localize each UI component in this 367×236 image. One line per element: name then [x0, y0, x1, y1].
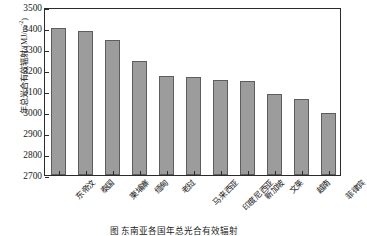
x-tick-label: 柬埔寨 — [128, 178, 151, 201]
x-axis-tick-labels: 东帝汶泰国柬埔寨缅甸老挝马来西亚印度尼西亚新加坡文莱越南菲律宾 — [44, 178, 341, 218]
y-axis-tick-labels: 350034003300320031003000290028002700 — [6, 8, 42, 176]
bar — [213, 80, 228, 175]
y-tick-mark — [45, 72, 49, 73]
x-tick-label: 马来西亚 — [211, 178, 240, 207]
y-tick-label: 3000 — [6, 109, 42, 118]
x-tick-label: 老挝 — [179, 178, 197, 196]
x-tick-mark — [86, 171, 87, 175]
y-tick-mark — [45, 9, 49, 10]
x-tick-mark — [302, 171, 303, 175]
y-tick-label: 2700 — [6, 172, 42, 181]
y-tick-mark — [45, 93, 49, 94]
x-tick-label: 菲律宾 — [344, 178, 367, 201]
y-tick-mark — [45, 156, 49, 157]
y-tick-mark — [45, 135, 49, 136]
y-tick-label: 3500 — [6, 4, 42, 13]
y-tick-label: 2800 — [6, 151, 42, 160]
x-tick-mark — [167, 171, 168, 175]
bar — [321, 113, 336, 175]
y-tick-label: 3100 — [6, 88, 42, 97]
bar — [294, 99, 309, 175]
y-tick-mark — [45, 114, 49, 115]
x-tick-mark — [329, 171, 330, 175]
y-tick-mark — [45, 30, 49, 31]
x-tick-mark — [275, 171, 276, 175]
bar — [159, 76, 174, 175]
x-tick-mark — [221, 171, 222, 175]
y-tick-label: 3400 — [6, 25, 42, 34]
bar — [267, 94, 282, 175]
bar — [51, 28, 66, 175]
bar — [186, 77, 201, 175]
x-tick-label: 东帝汶 — [74, 178, 97, 201]
bar — [240, 81, 255, 175]
x-tick-mark — [59, 171, 60, 175]
x-tick-mark — [194, 171, 195, 175]
bar — [105, 40, 120, 175]
y-tick-label: 3200 — [6, 67, 42, 76]
x-tick-mark — [248, 171, 249, 175]
figure-caption: 图 东南亚各国年总光合有效辐射 — [0, 226, 348, 236]
y-tick-label: 3300 — [6, 46, 42, 55]
x-tick-mark — [113, 171, 114, 175]
x-tick-label: 泰国 — [98, 178, 116, 196]
bar — [78, 31, 93, 175]
x-tick-label: 缅甸 — [152, 178, 170, 196]
y-tick-label: 2900 — [6, 130, 42, 139]
bar — [132, 61, 147, 175]
x-tick-mark — [140, 171, 141, 175]
plot-area — [44, 8, 341, 176]
y-tick-mark — [45, 51, 49, 52]
x-tick-label: 越南 — [314, 178, 332, 196]
x-tick-label: 文莱 — [287, 178, 305, 196]
